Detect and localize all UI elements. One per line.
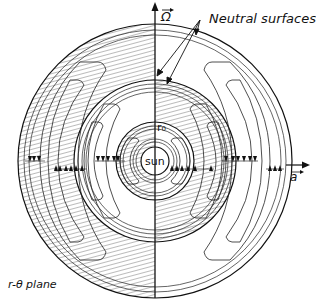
r-theta-plane-label: r-θ plane [8, 278, 57, 291]
a-vector-label: a [290, 170, 297, 184]
sun-label: sun [145, 155, 165, 168]
neutral-surfaces-label: Neutral surfaces [209, 11, 316, 26]
diagram-canvas [0, 0, 316, 303]
omega-vector-label: Ω [161, 9, 171, 24]
r0-label: r₀ [157, 121, 166, 134]
